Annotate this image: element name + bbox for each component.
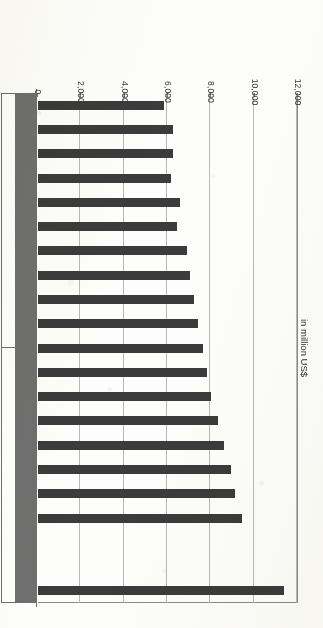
bar-row	[38, 214, 297, 238]
bar-row	[38, 117, 297, 141]
table-cell-year-2011: 2011	[33, 349, 34, 603]
bar-row	[38, 166, 297, 190]
table-cell-year-1998: 1998	[20, 349, 21, 603]
axis-title: in million US$	[299, 319, 310, 377]
table-row-header: Global revenue	[0, 94, 16, 348]
table-row-years: 2014201320122011201020092008200720062005…	[2, 349, 36, 603]
table-cell-value-2002: 7,200	[24, 94, 25, 348]
bar-row	[38, 336, 297, 360]
bar-1994	[38, 101, 164, 110]
table-cell-value-1996: 6,225	[18, 94, 19, 348]
bar-2014	[38, 586, 284, 595]
table-cell-value-2001: 7,000	[23, 94, 24, 348]
table-cell-value-2005: 7,800	[27, 94, 28, 348]
bar-2006	[38, 392, 211, 401]
bar-2008	[38, 441, 224, 450]
table-cell-year-1999: 1999	[21, 349, 22, 603]
table-cell-value-2004: 7,600	[26, 94, 27, 348]
table-cell-year-2010: 2010	[32, 349, 33, 603]
table-cell-value-2007: 8,300	[29, 94, 30, 348]
bar-row	[38, 360, 297, 384]
bar-1999	[38, 222, 177, 231]
bar-row	[38, 530, 297, 554]
bar-1996	[38, 149, 173, 158]
bar-2011	[38, 514, 242, 523]
table-cell-year-2000: 2000	[22, 349, 23, 603]
table-cell-value-2006: 8,000	[28, 94, 29, 348]
bar-1995	[38, 125, 173, 134]
bar-row	[38, 312, 297, 336]
bar-2010	[38, 489, 235, 498]
bar-row	[38, 263, 297, 287]
table-cell-value-2012: 0	[34, 94, 35, 348]
bar-2003	[38, 319, 198, 328]
table-cell-year-1994: 1994	[16, 349, 17, 603]
bar-2007	[38, 416, 218, 425]
bar-row	[38, 409, 297, 433]
table-cell-year-2001: 2001	[23, 349, 24, 603]
bar-row	[38, 554, 297, 578]
bar-row	[38, 457, 297, 481]
rotated-figure: 02,0004,0006,0008,00010,00012,000 in mil…	[0, 0, 323, 628]
bar-row	[38, 287, 297, 311]
table-cell-value-2008: 8,600	[30, 94, 31, 348]
bar-chart	[38, 93, 298, 603]
table-cell-year-2007: 2007	[29, 349, 30, 603]
table-cell-value-1994: 5,838	[16, 94, 17, 348]
bar-row	[38, 190, 297, 214]
table-cell-value-2013: 0	[35, 94, 36, 348]
bar-row	[38, 93, 297, 117]
table-cell-year-2003: 2003	[25, 349, 26, 603]
table-cell-value-2010: 9,100	[32, 94, 33, 348]
table-cell-value-2000: 6,880	[22, 94, 23, 348]
bar-2000	[38, 246, 187, 255]
bar-2002	[38, 295, 194, 304]
bar-row	[38, 482, 297, 506]
bar-row	[38, 579, 297, 603]
table-cell-year-2012: 2012	[34, 349, 35, 603]
table-row-values: 11,339009,4009,1008,9008,6008,3008,0007,…	[2, 94, 36, 349]
bar-row	[38, 433, 297, 457]
table-cell-year-1997: 1997	[19, 349, 20, 603]
bar-2001	[38, 271, 190, 280]
table-cell-value-1998: 6,544	[20, 94, 21, 348]
bar-series	[38, 93, 297, 603]
data-table: 2014201320122011201020092008200720062005…	[1, 93, 37, 603]
table-cell-value-1997: 6,157	[19, 94, 20, 348]
table-cell-year-2005: 2005	[27, 349, 28, 603]
table-cell-value-1995: 6,209	[17, 94, 18, 348]
table-cell-year-2006: 2006	[28, 349, 29, 603]
table-cell-year-2009: 2009	[31, 349, 32, 603]
bar-1997	[38, 174, 171, 183]
table-cell-value-1999: 6,429	[21, 94, 22, 348]
bar-row	[38, 142, 297, 166]
bar-2005	[38, 368, 207, 377]
table-cell-year-2004: 2004	[26, 349, 27, 603]
table-corner-blank	[0, 349, 16, 603]
plot-area	[38, 93, 298, 603]
bar-row	[38, 384, 297, 408]
bar-1998	[38, 198, 180, 207]
bar-2004	[38, 344, 203, 353]
bar-2009	[38, 465, 231, 474]
table-cell-value-2003: 7,400	[25, 94, 26, 348]
table-cell-value-2009: 8,900	[31, 94, 32, 348]
bar-row	[38, 506, 297, 530]
table-cell-year-2013: 2013	[35, 349, 36, 603]
bar-row	[38, 239, 297, 263]
table-cell-year-2008: 2008	[30, 349, 31, 603]
table-cell-year-1996: 1996	[18, 349, 19, 603]
table-cell-year-2002: 2002	[24, 349, 25, 603]
table-cell-value-2011: 9,400	[33, 94, 34, 348]
table-cell-year-1995: 1995	[17, 349, 18, 603]
